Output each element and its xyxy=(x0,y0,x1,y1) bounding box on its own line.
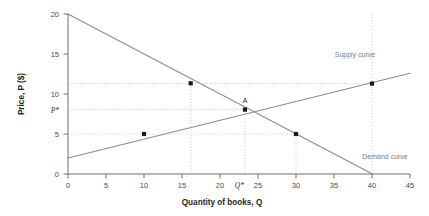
chart-canvas: 20 15 10 5 0 0 5 10 15 20 25 30 35 40 45… xyxy=(0,0,429,216)
y-tick-label-15: 15 xyxy=(51,50,59,59)
y-axis-ticks xyxy=(64,14,69,174)
series-lines xyxy=(68,14,410,174)
x-tick-label-15: 15 xyxy=(178,181,186,190)
equilibrium-price-label: P* xyxy=(50,106,60,115)
y-tick-label-20: 20 xyxy=(51,10,59,19)
demand-curve-label: Demand curve xyxy=(362,153,408,160)
x-tick-label-45: 45 xyxy=(406,181,414,190)
x-tick-label-35: 35 xyxy=(330,181,338,190)
data-point-demand-30 xyxy=(294,132,298,136)
x-tick-label-0: 0 xyxy=(66,181,70,190)
data-point-supply-12 xyxy=(142,132,146,136)
y-tick-label-10: 10 xyxy=(51,90,59,99)
x-tick-label-30: 30 xyxy=(292,181,300,190)
data-point-supply-37 xyxy=(370,82,374,86)
x-tick-label-40: 40 xyxy=(368,181,376,190)
y-axis-tick-labels: 20 15 10 5 0 xyxy=(51,10,59,179)
y-axis-title: Price, P ($) xyxy=(17,73,26,115)
supply-curve-label: Supply curve xyxy=(335,51,376,59)
x-tick-label-10: 10 xyxy=(140,181,148,190)
x-tick-label-25: 25 xyxy=(254,181,262,190)
x-axis-title: Quantity of books, Q xyxy=(182,198,263,207)
data-point-demand-18 xyxy=(189,81,193,85)
supply-curve-line xyxy=(68,73,410,158)
x-tick-label-20: 20 xyxy=(216,181,224,190)
equilibrium-point-a-label: A xyxy=(243,97,248,104)
supply-demand-chart: 20 15 10 5 0 0 5 10 15 20 25 30 35 40 45… xyxy=(0,0,429,216)
data-point-equilibrium-a xyxy=(243,108,247,112)
x-axis-ticks xyxy=(68,174,410,179)
data-points xyxy=(142,81,374,136)
y-tick-label-5: 5 xyxy=(55,130,59,139)
y-tick-label-0: 0 xyxy=(55,170,59,179)
x-tick-label-5: 5 xyxy=(104,181,108,190)
equilibrium-quantity-label: Q* xyxy=(235,181,244,190)
